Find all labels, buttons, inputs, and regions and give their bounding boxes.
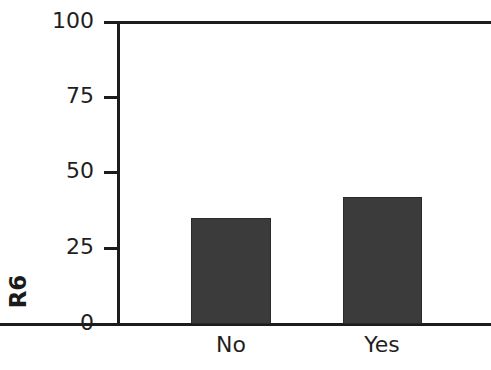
y-tick-label-50: 50 bbox=[34, 160, 94, 182]
x-tick-label-no: No bbox=[171, 334, 291, 356]
bar-no[interactable] bbox=[191, 218, 271, 324]
y-tick-mark-75 bbox=[104, 96, 118, 99]
y-tick-mark-50 bbox=[104, 171, 118, 174]
plot-top-border bbox=[117, 21, 491, 24]
y-tick-mark-0 bbox=[104, 323, 118, 326]
y-tick-label-25: 25 bbox=[34, 236, 94, 258]
y-tick-mark-100 bbox=[104, 21, 118, 24]
bar-chart: R6 100 75 50 25 0 No Yes bbox=[0, 0, 491, 370]
y-tick-mark-25 bbox=[104, 247, 118, 250]
y-tick-label-0: 0 bbox=[34, 312, 94, 334]
x-tick-label-yes: Yes bbox=[322, 334, 442, 356]
y-tick-label-75: 75 bbox=[34, 85, 94, 107]
bar-yes[interactable] bbox=[343, 197, 422, 324]
y-tick-label-100: 100 bbox=[34, 10, 94, 32]
y-axis-label: R6 bbox=[7, 262, 30, 322]
